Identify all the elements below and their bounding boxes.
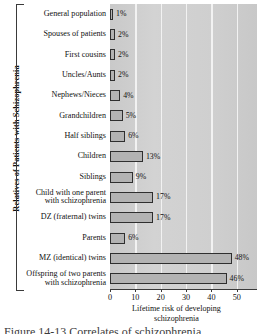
x-axis-tick (135, 289, 136, 292)
gridline (135, 4, 136, 289)
bar (110, 151, 143, 162)
bar-value-label: 6% (128, 132, 138, 140)
bar (110, 49, 115, 60)
category-label: Parents (0, 234, 106, 243)
x-axis-tick-label: 40 (199, 293, 223, 302)
category-label: Spouses of patients (0, 30, 106, 39)
bar-value-label: 6% (128, 234, 138, 242)
category-label: MZ (identical) twins (0, 254, 106, 263)
bar (110, 233, 125, 244)
bar-value-label: 2% (118, 31, 128, 39)
bar-value-label: 9% (136, 173, 146, 181)
bar (110, 110, 123, 121)
x-axis-tick-label: 30 (174, 293, 198, 302)
category-label: Siblings (0, 173, 106, 182)
category-label-line: Spouses of patients (0, 30, 106, 39)
category-label: Offspring of two parentswith schizophren… (0, 270, 106, 287)
category-label-line: Children (0, 152, 106, 161)
x-axis-tick (237, 289, 238, 292)
category-label: Uncles/Aunts (0, 71, 106, 80)
bar-value-label: 5% (126, 112, 136, 120)
x-axis-tick (211, 289, 212, 292)
x-axis-title-line: Lifetime risk of developing (96, 304, 257, 314)
bar (110, 172, 133, 183)
gridline (211, 4, 212, 289)
bar (110, 70, 115, 81)
x-axis-tick-label: 50 (225, 293, 249, 302)
x-axis-title: Lifetime risk of developingschizophrenia (96, 304, 257, 323)
category-label: Nephews/Nieces (0, 91, 106, 100)
bar (110, 273, 227, 284)
category-label: First cousins (0, 51, 106, 60)
category-label: Half siblings (0, 132, 106, 141)
bar-value-label: 1% (116, 10, 126, 18)
category-label-line: DZ (fraternal) twins (0, 213, 106, 222)
bar-value-label: 2% (118, 51, 128, 59)
bar (110, 9, 113, 20)
category-label-line: Nephews/Nieces (0, 91, 106, 100)
gridline (237, 4, 238, 289)
category-label: General population (0, 10, 106, 19)
category-bracket (16, 4, 24, 291)
category-label: DZ (fraternal) twins (0, 213, 106, 222)
bar (110, 253, 232, 264)
category-label-line: Siblings (0, 173, 106, 182)
bar-value-label: 46% (230, 275, 244, 283)
bar-value-label: 48% (235, 254, 249, 262)
category-label-line: Grandchildren (0, 112, 106, 121)
x-axis-line (110, 289, 257, 290)
x-axis-tick (186, 289, 187, 292)
category-label-line: Parents (0, 234, 106, 243)
bar-value-label: 13% (146, 153, 160, 161)
bar-value-label: 4% (123, 92, 133, 100)
bar (110, 131, 125, 142)
category-label: Grandchildren (0, 112, 106, 121)
category-label: Child with one parentwith schizophrenia (0, 189, 106, 206)
plot-area (110, 4, 257, 289)
category-label: Children (0, 152, 106, 161)
bar-value-label: 2% (118, 71, 128, 79)
x-axis-title-line: schizophrenia (96, 314, 257, 324)
bar (110, 29, 115, 40)
category-label-line: First cousins (0, 51, 106, 60)
bar-value-label: 17% (156, 214, 170, 222)
x-axis-tick-label: 0 (98, 293, 122, 302)
category-label-line: Half siblings (0, 132, 106, 141)
bar-value-label: 17% (156, 193, 170, 201)
category-label-line: MZ (identical) twins (0, 254, 106, 263)
x-axis-tick-label: 20 (149, 293, 173, 302)
gridline (186, 4, 187, 289)
figure-schizophrenia-risk: Relatives of Patients with Schizophrenia… (0, 0, 257, 334)
bar (110, 212, 153, 223)
category-label-line: General population (0, 10, 106, 19)
category-label-line: with schizophrenia (0, 197, 106, 206)
category-label-line: Uncles/Aunts (0, 71, 106, 80)
category-label-column: General populationSpouses of patientsFir… (24, 4, 109, 289)
bar (110, 192, 153, 203)
figure-caption: Figure 14-13 Correlates of schizophrenia… (4, 326, 257, 334)
x-axis-tick (110, 289, 111, 292)
x-axis-tick-label: 10 (123, 293, 147, 302)
bar (110, 90, 120, 101)
category-label-line: with schizophrenia (0, 279, 106, 288)
gridline (161, 4, 162, 289)
x-axis-tick (161, 289, 162, 292)
